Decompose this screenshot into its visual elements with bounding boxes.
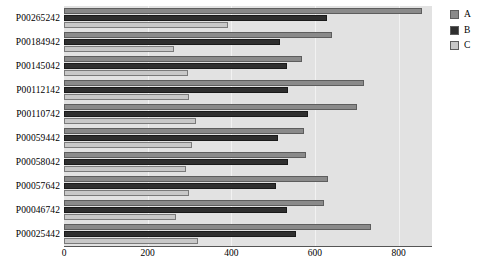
legend: ABC	[450, 10, 471, 51]
bar-a[interactable]	[64, 224, 371, 230]
bar-a[interactable]	[64, 128, 304, 134]
bar-c[interactable]	[64, 46, 174, 52]
bar-b[interactable]	[64, 135, 278, 141]
x-axis-line	[64, 246, 432, 247]
bar-a[interactable]	[64, 8, 422, 14]
y-axis-label: P00184942	[0, 30, 63, 54]
bar-groups	[64, 6, 432, 246]
bar-c[interactable]	[64, 142, 192, 148]
y-axis-label: P00145042	[0, 54, 63, 78]
y-axis-label: P00058042	[0, 150, 63, 174]
legend-label: B	[464, 26, 470, 36]
bar-c[interactable]	[64, 70, 188, 76]
x-tick-label: 800	[391, 248, 405, 258]
x-tick-label: 200	[141, 248, 155, 258]
bar-group	[64, 6, 432, 30]
bar-a[interactable]	[64, 32, 332, 38]
bar-b[interactable]	[64, 159, 288, 165]
y-axis-label: P00112142	[0, 78, 63, 102]
bar-b[interactable]	[64, 231, 296, 237]
legend-label: A	[464, 10, 471, 20]
legend-swatch-a	[450, 10, 459, 19]
bar-group	[64, 30, 432, 54]
bar-c[interactable]	[64, 214, 176, 220]
legend-item-b[interactable]: B	[450, 26, 471, 36]
bar-c[interactable]	[64, 94, 189, 100]
y-axis-label: P00059442	[0, 126, 63, 150]
y-axis-label: P00046742	[0, 198, 63, 222]
bar-a[interactable]	[64, 176, 328, 182]
y-axis-label: P00265242	[0, 6, 63, 30]
bar-group	[64, 102, 432, 126]
legend-item-c[interactable]: C	[450, 41, 471, 51]
bar-b[interactable]	[64, 111, 308, 117]
bar-a[interactable]	[64, 200, 324, 206]
x-tick-label: 0	[62, 248, 67, 258]
bar-c[interactable]	[64, 190, 189, 196]
y-axis-label: P00057642	[0, 174, 63, 198]
y-axis-label: P00025442	[0, 222, 63, 246]
bar-b[interactable]	[64, 183, 276, 189]
bar-group	[64, 78, 432, 102]
y-axis-label: P00110742	[0, 102, 63, 126]
bar-chart: P00265242P00184942P00145042P00112142P001…	[0, 0, 492, 273]
bar-group	[64, 198, 432, 222]
bar-group	[64, 150, 432, 174]
legend-swatch-c	[450, 41, 459, 50]
bar-group	[64, 54, 432, 78]
x-tick-label: 400	[224, 248, 238, 258]
legend-label: C	[464, 41, 470, 51]
y-axis-category-labels: P00265242P00184942P00145042P00112142P001…	[0, 6, 63, 246]
bar-b[interactable]	[64, 15, 327, 21]
bar-a[interactable]	[64, 56, 302, 62]
bar-a[interactable]	[64, 104, 357, 110]
bar-b[interactable]	[64, 207, 287, 213]
bar-b[interactable]	[64, 63, 287, 69]
bar-b[interactable]	[64, 39, 280, 45]
x-tick-label: 600	[308, 248, 322, 258]
legend-swatch-b	[450, 26, 459, 35]
bar-a[interactable]	[64, 80, 364, 86]
bar-group	[64, 126, 432, 150]
x-axis-tick-labels: 0200400600800	[64, 248, 432, 264]
bar-c[interactable]	[64, 166, 186, 172]
bar-c[interactable]	[64, 238, 198, 244]
bar-b[interactable]	[64, 87, 288, 93]
legend-item-a[interactable]: A	[450, 10, 471, 20]
bar-group	[64, 222, 432, 246]
bar-c[interactable]	[64, 22, 228, 28]
plot-area	[64, 6, 432, 246]
bar-group	[64, 174, 432, 198]
bar-a[interactable]	[64, 152, 306, 158]
bar-c[interactable]	[64, 118, 196, 124]
